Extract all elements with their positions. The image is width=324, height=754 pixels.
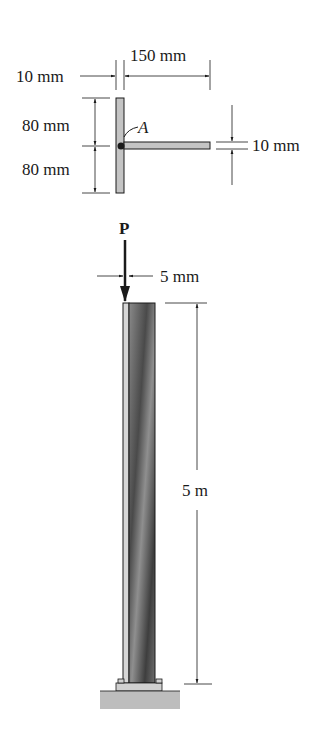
cross-section: A 10 mm 150 mm 80 mm 80 mm 10 mm xyxy=(16,46,300,193)
bolt-left xyxy=(118,679,124,683)
web-thickness-label: 10 mm xyxy=(252,136,300,155)
web-length-label: 150 mm xyxy=(130,46,186,65)
point-a-leader xyxy=(124,127,138,137)
length-label: 5 m xyxy=(182,481,208,500)
load-label: P xyxy=(119,219,129,238)
eccentricity-label: 5 mm xyxy=(160,267,199,286)
column-diagram: A 10 mm 150 mm 80 mm 80 mm 10 mm P 5 xyxy=(0,0,324,754)
column-flange xyxy=(123,303,129,683)
web-rect xyxy=(124,142,210,149)
ground xyxy=(100,691,180,709)
load-arrow-icon xyxy=(120,286,130,302)
column-elevation: P 5 mm 5 m xyxy=(97,219,212,709)
column-web xyxy=(129,303,155,683)
point-a-dot xyxy=(118,143,125,150)
point-a-label: A xyxy=(137,118,149,137)
bolt-right xyxy=(156,679,162,683)
upper-height-label: 80 mm xyxy=(22,116,70,135)
lower-height-label: 80 mm xyxy=(22,160,70,179)
base-plate xyxy=(116,683,162,691)
flange-thickness-label: 10 mm xyxy=(16,67,64,86)
